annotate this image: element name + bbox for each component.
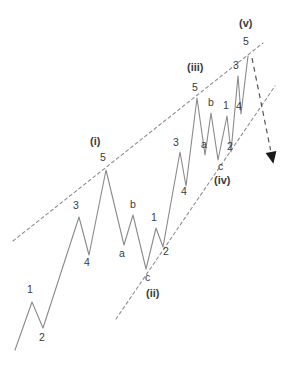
lower-trendline [116,86,275,319]
trendline-group [13,43,275,319]
elliott-wave-diagram: 1234(i)5abc(ii)1234(iii)5ab12c(iv)34(v)5 [0,0,292,368]
wave-chart-canvas [0,0,292,368]
label-wave-4: 4 [84,257,90,268]
label-wave-3: 3 [73,200,79,211]
forecast-arrow [252,58,276,164]
label-wave-1-b: 1 [151,212,157,223]
label-degree-v: (v) [239,18,252,29]
label-wave-a-2: a [201,139,207,150]
label-wave-2-b: 2 [163,246,169,257]
label-wave-5-v: 5 [243,36,249,47]
label-wave-4-c: 4 [236,101,242,112]
label-wave-1: 1 [27,284,33,295]
forecast-arrow-shaft [252,58,271,150]
label-wave-5-i: 5 [100,152,106,163]
label-wave-b-1: b [130,199,136,210]
label-wave-3-b: 3 [173,137,179,148]
label-wave-a-1: a [119,248,125,259]
label-degree-i: (i) [90,136,100,147]
label-wave-1-c: 1 [223,100,229,111]
label-wave-c-2: c [218,161,223,172]
label-wave-c-1: c [145,272,150,283]
label-degree-ii: (ii) [146,288,159,299]
upper-trendline [13,43,263,241]
label-degree-iii: (iii) [187,62,204,73]
label-wave-3-c: 3 [233,60,239,71]
label-wave-b-2: b [208,97,214,108]
label-wave-2: 2 [39,332,45,343]
label-wave-2-c: 2 [227,141,233,152]
forecast-arrow-head [266,151,277,164]
label-wave-4-b: 4 [181,186,187,197]
label-wave-5-iii: 5 [192,82,198,93]
label-degree-iv: (iv) [214,175,231,186]
